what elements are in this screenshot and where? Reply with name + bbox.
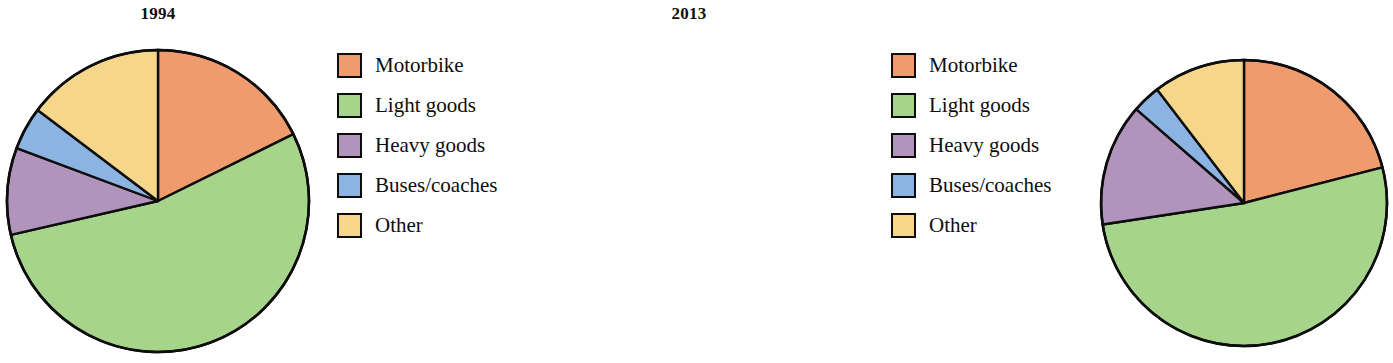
legend-item-label: Other	[929, 215, 977, 236]
legend-swatch-icon	[891, 173, 916, 198]
legend-item-other[interactable]: Other	[891, 205, 1051, 245]
legend-swatch-icon	[891, 93, 916, 118]
legend-1994: MotorbikeLight goodsHeavy goodsBuses/coa…	[337, 45, 497, 245]
legend-item-label: Other	[375, 215, 423, 236]
legend-item-heavy-goods[interactable]: Heavy goods	[337, 125, 497, 165]
pie-svg-2013	[1064, 23, 1393, 363]
legend-item-label: Motorbike	[929, 55, 1018, 76]
legend-item-buses-coaches[interactable]: Buses/coaches	[891, 165, 1051, 205]
page-title-2013: 2013	[531, 4, 847, 24]
legend-swatch-icon	[337, 133, 362, 158]
legend-swatch-icon	[337, 53, 362, 78]
legend-item-label: Light goods	[929, 95, 1030, 116]
legend-item-motorbike[interactable]: Motorbike	[337, 45, 497, 85]
legend-swatch-icon	[337, 173, 362, 198]
legend-swatch-icon	[891, 53, 916, 78]
legend-item-label: Buses/coaches	[929, 175, 1051, 196]
legend-item-light-goods[interactable]: Light goods	[891, 85, 1051, 125]
legend-2013: MotorbikeLight goodsHeavy goodsBuses/coa…	[891, 45, 1051, 245]
legend-item-motorbike[interactable]: Motorbike	[891, 45, 1051, 85]
legend-item-buses-coaches[interactable]: Buses/coaches	[337, 165, 497, 205]
legend-item-label: Heavy goods	[929, 135, 1039, 156]
pie-chart-1994	[0, 21, 338, 363]
legend-item-label: Heavy goods	[375, 135, 485, 156]
panel-1994: 1994 MotorbikeLight goodsHeavy goodsBuse…	[0, 0, 531, 363]
legend-swatch-icon	[891, 133, 916, 158]
pie-svg-1994	[0, 21, 338, 363]
pie-chart-2013	[1064, 23, 1393, 363]
legend-item-label: Light goods	[375, 95, 476, 116]
legend-item-other[interactable]: Other	[337, 205, 497, 245]
legend-item-label: Motorbike	[375, 55, 464, 76]
legend-swatch-icon	[337, 213, 362, 238]
legend-swatch-icon	[891, 213, 916, 238]
legend-item-light-goods[interactable]: Light goods	[337, 85, 497, 125]
panel-2013: 2013 MotorbikeLight goodsHeavy goodsBuse…	[531, 0, 1062, 363]
legend-swatch-icon	[337, 93, 362, 118]
legend-item-label: Buses/coaches	[375, 175, 497, 196]
legend-item-heavy-goods[interactable]: Heavy goods	[891, 125, 1051, 165]
